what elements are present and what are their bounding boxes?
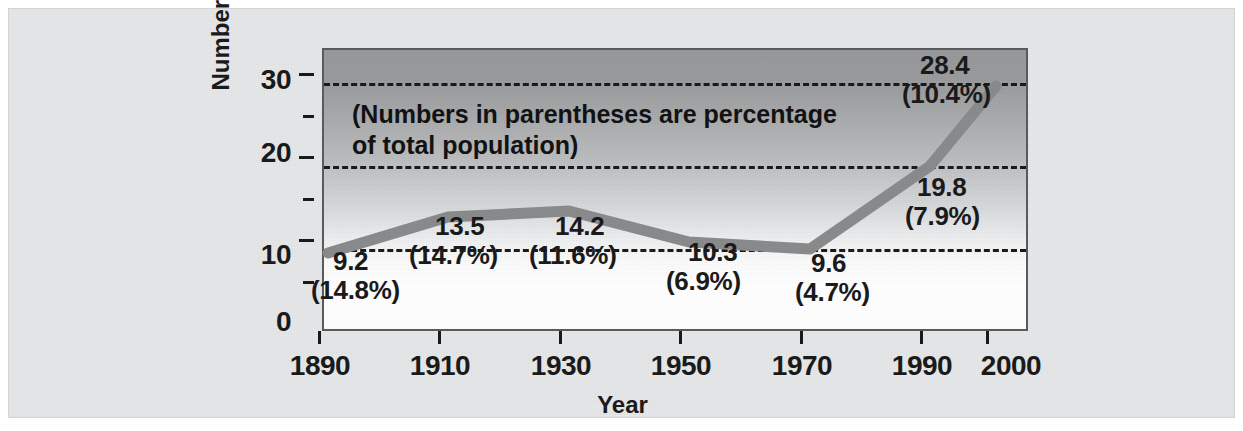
data-percent-1890: (14.8%) (311, 276, 400, 305)
y-tick-label-0: 0 (231, 306, 291, 338)
x-tick-mark-1970 (800, 331, 803, 344)
x-tick-mark-1990 (920, 331, 923, 344)
data-percent-1990: (7.9%) (905, 202, 980, 231)
x-tick-label-1890: 1890 (290, 350, 350, 382)
y-tick-mark-25 (303, 115, 314, 118)
data-label-2000: 28.4 (10.4%) (902, 51, 991, 109)
figure: Number (in millions) 30 20 10 0 (0, 0, 1243, 431)
data-label-1930: 14.2 (11.6%) (529, 212, 617, 270)
y-tick-mark-20 (299, 156, 314, 159)
y-tick-label-20: 20 (231, 137, 291, 169)
data-value-1910: 13.5 (435, 212, 498, 241)
x-axis-title: Year (9, 391, 1236, 419)
data-value-1950: 10.3 (688, 238, 741, 267)
data-percent-1910: (14.7%) (409, 241, 498, 270)
data-percent-1970: (4.7%) (795, 278, 870, 307)
x-tick-mark-1950 (679, 331, 682, 344)
data-label-1890: 9.2 (14.8%) (311, 247, 400, 305)
data-label-1910: 13.5 (14.7%) (409, 212, 498, 270)
y-tick-label-30: 30 (231, 64, 291, 96)
data-value-1890: 9.2 (333, 247, 400, 276)
data-label-1990: 19.8 (7.9%) (905, 173, 980, 231)
y-tick-mark-15 (303, 198, 314, 201)
data-value-1970: 9.6 (811, 249, 870, 278)
data-percent-1950: (6.9%) (666, 267, 741, 296)
data-value-1930: 14.2 (555, 212, 617, 241)
figure-frame: Number (in millions) 30 20 10 0 (8, 8, 1235, 418)
annotation-line-1: (Numbers in parentheses are percentage (352, 99, 952, 130)
data-value-2000: 28.4 (920, 51, 991, 80)
x-tick-mark-2000 (986, 331, 989, 344)
x-tick-label-1970: 1970 (772, 350, 832, 382)
data-label-1950: 10.3 (6.9%) (666, 238, 741, 296)
data-label-1970: 9.6 (4.7%) (795, 249, 870, 307)
y-tick-mark-30 (299, 73, 314, 76)
x-tick-mark-1910 (438, 331, 441, 344)
data-percent-1930: (11.6%) (529, 241, 617, 270)
x-tick-label-1910: 1910 (410, 350, 470, 382)
x-tick-label-1990: 1990 (892, 350, 952, 382)
x-tick-mark-1930 (559, 331, 562, 344)
x-tick-label-2000: 2000 (981, 350, 1041, 382)
y-axis-title: Number (in millions) (204, 0, 238, 116)
x-tick-label-1930: 1930 (531, 350, 591, 382)
data-value-1990: 19.8 (917, 173, 980, 202)
data-percent-2000: (10.4%) (902, 80, 991, 109)
annotation-line-2: of total population) (352, 130, 952, 161)
x-tick-mark-1890 (318, 331, 321, 344)
y-tick-label-10: 10 (231, 239, 291, 271)
chart-annotation: (Numbers in parentheses are percentage o… (352, 99, 952, 160)
y-tick-mark-10 (299, 239, 314, 242)
x-tick-label-1950: 1950 (651, 350, 711, 382)
